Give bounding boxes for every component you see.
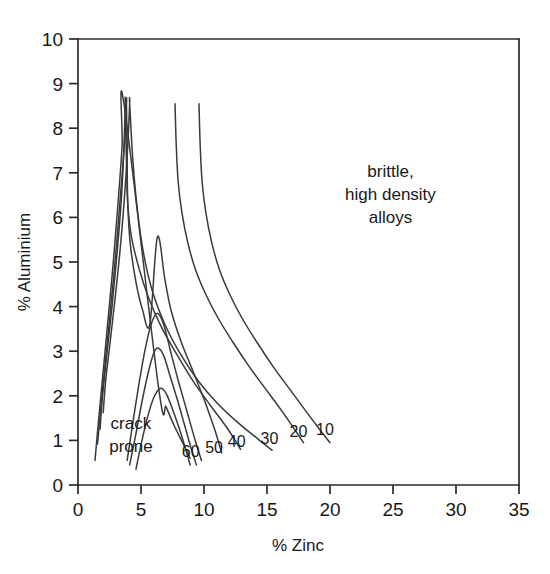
x-tick-label: 30 [445,499,466,520]
contour-label-20: 20 [290,423,308,440]
x-tick-label: 5 [136,499,147,520]
y-axis-title: % Aluminium [15,213,34,311]
x-tick-label: 0 [73,499,84,520]
y-tick-label: 1 [52,430,63,451]
x-tick-label: 25 [382,499,403,520]
annotation-line: brittle, [367,162,413,181]
y-tick-label: 7 [52,163,63,184]
y-tick-label: 4 [52,297,63,318]
contour-label-10: 10 [316,421,334,438]
annotation-line: prone [109,437,152,456]
contour-label-30: 30 [261,430,279,447]
alzn-cracking-contour-chart: 05101520253035 012345678910 102030405060… [0,0,550,574]
y-tick-label: 5 [52,252,63,273]
chart-background [0,0,550,574]
contour-label-40: 40 [228,433,246,450]
y-tick-label: 10 [42,29,63,50]
annotation-line: high density [345,185,436,204]
y-tick-label: 3 [52,341,63,362]
x-tick-label: 20 [319,499,340,520]
contour-label-50: 50 [205,439,223,456]
y-tick-label: 9 [52,74,63,95]
y-tick-label: 6 [52,207,63,228]
chart-figure: 05101520253035 012345678910 102030405060… [0,0,550,574]
y-tick-label: 0 [52,475,63,496]
y-tick-label: 2 [52,386,63,407]
contour-label-60: 60 [182,443,200,460]
x-tick-label: 15 [256,499,277,520]
annotation-line: crack [111,414,152,433]
y-tick-label: 8 [52,118,63,139]
x-tick-label: 35 [508,499,529,520]
annotation-line: alloys [369,208,412,227]
x-tick-label: 10 [193,499,214,520]
x-axis-title: % Zinc [272,536,324,555]
